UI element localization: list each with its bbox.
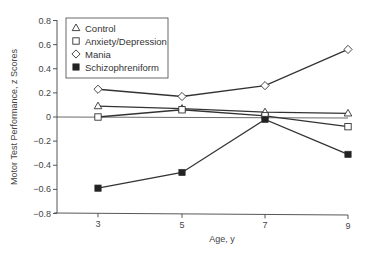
y-axis-title: Motor Test Performance, z Scores: [9, 49, 19, 185]
y-axis: 0.80.60.40.20−0.2−0.4−0.6−0.8: [33, 16, 57, 219]
y-tick-label: −0.2: [33, 136, 51, 146]
legend-label: Mania: [85, 49, 112, 60]
x-axis: 3579: [54, 213, 351, 231]
legend: ControlAnxiety/DepressionManiaSchizophre…: [66, 18, 168, 78]
filled-square-icon: [73, 64, 79, 70]
line-chart: 0.80.60.40.20−0.2−0.4−0.6−0.8 3579 Motor…: [0, 0, 371, 260]
x-tick-label: 3: [95, 219, 100, 229]
data-point: [95, 185, 101, 191]
data-point: [345, 151, 351, 157]
data-point: [178, 92, 186, 100]
data-point: [262, 116, 268, 122]
legend-label: Anxiety/Depression: [85, 36, 167, 47]
x-tick-label: 7: [262, 220, 267, 230]
series-schizophreniform: [95, 116, 351, 191]
x-tick-label: 9: [345, 221, 350, 231]
y-tick-label: 0.2: [38, 88, 51, 98]
y-tick-label: 0.6: [38, 40, 51, 50]
data-point: [261, 82, 269, 90]
x-tick-label: 5: [179, 220, 184, 230]
data-point: [94, 102, 102, 109]
data-point: [179, 169, 185, 175]
square-icon: [73, 38, 79, 44]
data-point: [179, 107, 185, 113]
y-tick-label: 0.4: [38, 64, 51, 74]
y-tick-label: −0.4: [33, 160, 51, 170]
y-tick-label: 0: [46, 112, 51, 122]
data-point: [344, 109, 352, 116]
data-point: [95, 114, 101, 120]
data-point: [345, 123, 351, 129]
legend-item: Schizophreniform: [73, 62, 159, 73]
legend-label: Schizophreniform: [85, 62, 159, 73]
data-point: [344, 45, 352, 53]
y-tick-label: −0.8: [33, 209, 51, 219]
series-line: [98, 119, 348, 188]
legend-item: Anxiety/Depression: [73, 36, 167, 47]
data-point: [94, 85, 102, 93]
y-tick-label: −0.6: [33, 184, 51, 194]
y-tick-label: 0.8: [38, 16, 51, 26]
legend-label: Control: [85, 23, 116, 34]
x-axis-title: Age, y: [209, 234, 235, 244]
